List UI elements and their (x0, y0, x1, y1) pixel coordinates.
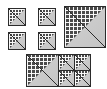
tile-diagonal-line (65, 7, 105, 47)
tile-diagonal-line (75, 71, 90, 86)
tile-1 (8, 8, 26, 26)
tile-2 (38, 8, 56, 26)
tile-diagonal-line (39, 33, 55, 49)
composite-tile-small-1 (58, 54, 75, 71)
tile-large (64, 6, 106, 48)
tile-diagonal-line (9, 9, 25, 25)
figure-canvas (0, 0, 107, 89)
tile-diagonal-line (27, 55, 58, 86)
tile-diagonal-line (59, 55, 74, 70)
tile-4 (38, 32, 56, 50)
tile-3 (8, 32, 26, 50)
composite-group (26, 54, 90, 87)
composite-tile-small-4 (74, 70, 91, 87)
composite-tile-large (26, 54, 59, 87)
tile-diagonal-line (59, 71, 74, 86)
composite-tile-small-3 (58, 70, 75, 87)
composite-tile-small-2 (74, 54, 91, 71)
tile-diagonal-line (9, 33, 25, 49)
tile-diagonal-line (75, 55, 90, 70)
tile-diagonal-line (39, 9, 55, 25)
